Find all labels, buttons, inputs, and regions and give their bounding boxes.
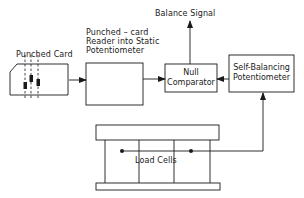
null-label-line1: Null bbox=[165, 68, 217, 78]
null-comparator-label: Null Comparator bbox=[165, 68, 217, 88]
punched-card-label: Punched Card bbox=[16, 50, 73, 59]
self-balancing-label: Self-Balancing Potentiometer bbox=[229, 63, 294, 83]
bottom-plate bbox=[96, 183, 220, 190]
card-hole bbox=[30, 75, 34, 82]
reader-label-line2: Reader into Static bbox=[86, 37, 159, 46]
block-diagram bbox=[0, 0, 304, 198]
card-reader-box bbox=[86, 63, 143, 105]
reader-label-line1: Punched – card bbox=[86, 28, 148, 37]
card-hole bbox=[37, 79, 41, 86]
reader-label-line3: Potentiometer bbox=[86, 46, 144, 55]
junction-dot bbox=[189, 149, 193, 153]
selfbal-label-line2: Potentiometer bbox=[229, 73, 294, 83]
balance-signal-label: Balance Signal bbox=[155, 9, 215, 18]
card-hole bbox=[24, 82, 28, 89]
load-cells-label: Load Cells bbox=[135, 156, 177, 165]
top-plate bbox=[96, 125, 219, 140]
punched-card bbox=[10, 55, 68, 98]
null-label-line2: Comparator bbox=[165, 78, 217, 88]
selfbal-label-line1: Self-Balancing bbox=[229, 63, 294, 73]
junction-dot bbox=[120, 149, 124, 153]
